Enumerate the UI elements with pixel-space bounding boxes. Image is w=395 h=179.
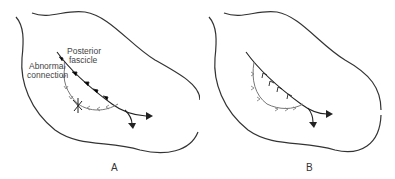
- panel-a-letter: A: [111, 162, 118, 173]
- posterior-label-line2: fascicle: [67, 56, 101, 65]
- heart-outline: [16, 17, 198, 153]
- panel-b-diagram: [195, 0, 395, 179]
- panel-b: B: [195, 0, 392, 179]
- abnormal-label-line2: connection: [27, 71, 68, 80]
- heart-outline: [209, 17, 381, 152]
- arrow-head-down-icon: [309, 122, 317, 128]
- panel-a: Posterior fascicle Abnormal connection A: [0, 0, 197, 179]
- panel-b-letter: B: [306, 162, 313, 173]
- arrow-head-right-icon: [326, 110, 333, 118]
- main-path-retrograde-ticks: [262, 73, 292, 99]
- arrow-head-right-icon: [146, 112, 153, 120]
- heart-outline-top: [32, 11, 200, 100]
- arrow-head-down-icon: [128, 123, 136, 129]
- posterior-fascicle-label: Posterior fascicle: [67, 47, 101, 65]
- posterior-fascicle-path: [246, 52, 327, 114]
- abnormal-connection-label: Abnormal connection: [27, 62, 68, 80]
- abnormal-path-ticks: [251, 72, 296, 111]
- panel-a-diagram: [0, 0, 200, 179]
- heart-outline-top: [224, 11, 381, 110]
